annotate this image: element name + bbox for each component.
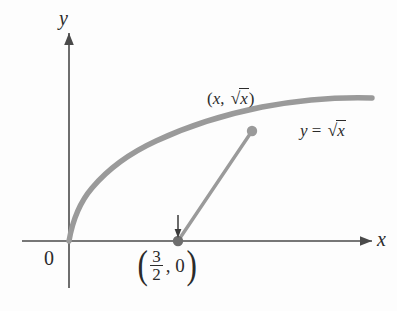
- curve-label-radicand: x: [336, 120, 346, 140]
- sqrt-curve: [69, 98, 372, 241]
- x-axis-label: x: [377, 229, 386, 249]
- chord-segment: [178, 131, 252, 241]
- curve-label-equals: =: [308, 121, 326, 140]
- base-point-label: ( 3 2 , 0 ): [136, 248, 198, 284]
- curve-equation-label: y = √x: [300, 122, 346, 139]
- y-axis-arrowhead: [64, 33, 74, 45]
- base-label-close-paren: ): [186, 249, 196, 282]
- y-axis-label: y: [59, 8, 68, 28]
- point-label-radical: √x: [229, 90, 249, 107]
- point-label-close-paren: ): [249, 89, 255, 108]
- base-label-comma-zero: , 0: [166, 256, 185, 275]
- graph-canvas: [0, 0, 397, 311]
- figure-container: y x 0 (x, √x) y = √x ( 3 2 , 0 ): [0, 0, 397, 311]
- base-label-open-paren: (: [137, 249, 147, 282]
- fraction-numerator: 3: [150, 248, 163, 265]
- origin-label: 0: [44, 248, 54, 268]
- base-label-fraction: 3 2: [150, 248, 163, 284]
- point-on-curve-dot: [247, 126, 257, 136]
- point-label-radicand: x: [239, 88, 249, 108]
- base-label-group: ( 3 2 , 0 ): [136, 248, 198, 284]
- curve-label-radical: √x: [326, 122, 346, 139]
- point-label-comma: ,: [220, 89, 229, 108]
- fraction-denominator: 2: [150, 265, 163, 283]
- curve-label-y: y: [300, 121, 308, 140]
- x-axis-arrowhead: [360, 236, 372, 246]
- point-on-curve-label: (x, √x): [207, 90, 254, 107]
